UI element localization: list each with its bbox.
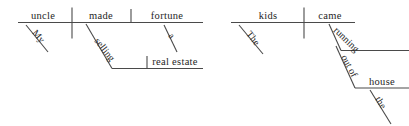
word-gerund-selling: selling [92, 35, 117, 63]
word-modifier-the-kids: The [244, 29, 262, 48]
word-verb-left: made [89, 10, 113, 21]
sentence-diagram-figure: uncle made fortune My a selling real est… [0, 0, 409, 126]
word-subject-right: kids [259, 10, 278, 21]
diagram-left: uncle made fortune My a selling real est… [18, 8, 203, 69]
word-verb-right: came [318, 10, 341, 21]
word-gerund-object: real estate [152, 56, 198, 67]
diagram-right: kids came The running out of house the [231, 8, 409, 125]
word-modifier-the-house: the [373, 95, 388, 111]
word-object-left: fortune [151, 10, 183, 21]
word-modifier-my: My [30, 28, 47, 45]
word-preposition-out-of: out of [339, 53, 360, 80]
word-subject-left: uncle [31, 10, 55, 21]
word-prep-object-house: house [369, 76, 395, 87]
